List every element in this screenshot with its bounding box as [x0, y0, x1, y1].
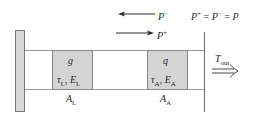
left-mirror — [16, 31, 25, 112]
absorber-area-label: AA — [160, 94, 171, 108]
output-transmission-label: Tout — [215, 54, 230, 68]
gain-params-label: τL, EL — [57, 75, 80, 89]
forward-arrow-icon — [116, 31, 154, 36]
backward-power-label: P− — [158, 9, 168, 22]
gain-area-label: AL — [66, 94, 76, 108]
backward-arrow-icon — [118, 12, 155, 17]
absorber-label: q — [163, 56, 168, 66]
forward-power-label: P+ — [157, 28, 167, 41]
gain-label: g — [68, 56, 73, 66]
absorber-params-label: τA, EA — [151, 75, 176, 89]
power-equality-equation: P+ = P− = P — [191, 9, 239, 22]
